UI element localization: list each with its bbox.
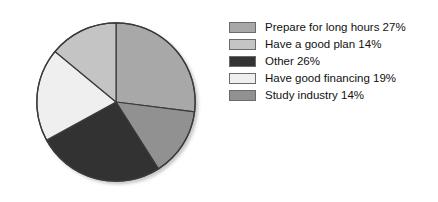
pie-chart-graphic <box>30 16 202 188</box>
legend-swatch-have-good-financing <box>229 73 256 84</box>
legend-label-study-industry: Study industry 14% <box>265 89 364 102</box>
legend-label-have-a-good-plan: Have a good plan 14% <box>265 38 381 51</box>
chart-legend: Prepare for long hours 27% Have a good p… <box>229 19 429 104</box>
legend-item: Study industry 14% <box>229 87 429 104</box>
legend-item: Have good financing 19% <box>229 70 429 87</box>
pie-chart-figure: Prepare for long hours 27% Have a good p… <box>0 0 438 202</box>
legend-label-have-good-financing: Have good financing 19% <box>265 72 396 85</box>
pie-svg <box>30 16 202 188</box>
legend-item: Have a good plan 14% <box>229 36 429 53</box>
pie-slices-group <box>37 23 195 181</box>
legend-item: Prepare for long hours 27% <box>229 19 429 36</box>
legend-swatch-other <box>229 56 256 67</box>
pie-slice <box>116 23 195 112</box>
legend-label-other: Other 26% <box>265 55 320 68</box>
legend-swatch-have-a-good-plan <box>229 39 256 50</box>
legend-item: Other 26% <box>229 53 429 70</box>
legend-swatch-study-industry <box>229 90 256 101</box>
legend-swatch-prepare-for-long-hours <box>229 22 256 33</box>
legend-label-prepare-for-long-hours: Prepare for long hours 27% <box>265 21 406 34</box>
